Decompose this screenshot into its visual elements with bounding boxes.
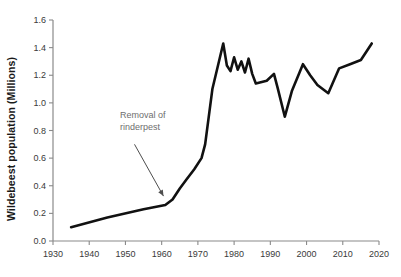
line-chart-plot <box>0 0 401 277</box>
x-tick-label: 1980 <box>224 249 244 259</box>
x-tick-label: 2000 <box>297 249 317 259</box>
y-tick-label: 1.2 <box>15 70 46 80</box>
x-tick-label: 1930 <box>43 249 63 259</box>
y-tick-label: 0.0 <box>15 236 46 246</box>
x-tick-label: 1940 <box>79 249 99 259</box>
y-tick-label: 1.6 <box>15 15 46 25</box>
x-tick-label: 1990 <box>260 249 280 259</box>
annotation-arrow <box>135 144 164 196</box>
x-tick-label: 1970 <box>188 249 208 259</box>
axes <box>53 20 379 241</box>
y-tick-label: 0.6 <box>15 153 46 163</box>
y-axis-label: Wildebeest population (Millions) <box>5 56 17 220</box>
x-tick-label: 1950 <box>115 249 135 259</box>
y-tick-label: 1.0 <box>15 98 46 108</box>
annotation-line: rinderpest <box>120 122 166 134</box>
annotation-line: Removal of <box>120 110 166 122</box>
y-tick-label: 0.4 <box>15 181 46 191</box>
x-tick-label: 1960 <box>152 249 172 259</box>
y-tick-label: 0.8 <box>15 126 46 136</box>
x-tick-label: 2020 <box>369 249 389 259</box>
y-tick-label: 1.4 <box>15 43 46 53</box>
data-series <box>71 43 372 227</box>
axis-ticks <box>49 20 379 245</box>
y-tick-label: 0.2 <box>15 208 46 218</box>
rinderpest-annotation-text: Removal ofrinderpest <box>120 110 166 133</box>
chart-container: Wildebeest population (Millions) 0.00.20… <box>0 0 401 277</box>
x-tick-label: 2010 <box>333 249 353 259</box>
